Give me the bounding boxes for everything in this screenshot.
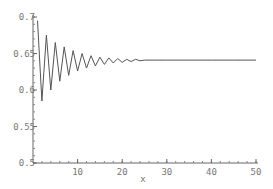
y-tick-label: 0.65	[13, 49, 35, 59]
x-tick-label: 10	[72, 167, 83, 177]
x-axis-label: x	[140, 174, 146, 184]
x-tick-label: 50	[251, 167, 262, 177]
x-axis: 1020304050	[33, 159, 261, 177]
y-tick-label: 0.5	[19, 158, 35, 168]
chart: 0.50.550.60.650.7 1020304050 x	[0, 0, 273, 189]
y-tick-label: 0.6	[19, 85, 35, 95]
y-axis: 0.50.550.60.650.7	[13, 12, 37, 168]
y-tick-label: 0.55	[13, 122, 35, 132]
x-tick-label: 40	[206, 167, 217, 177]
x-tick-label: 30	[161, 167, 172, 177]
y-tick-label: 0.7	[19, 12, 35, 22]
plot-line	[38, 21, 257, 101]
x-tick-label: 20	[117, 167, 128, 177]
